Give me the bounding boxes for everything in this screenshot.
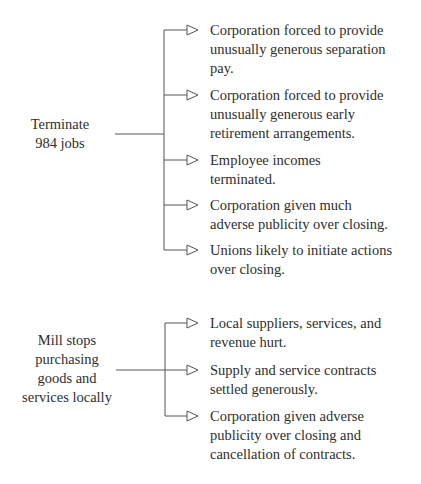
arrow-icon <box>187 411 198 421</box>
effect-contracts-settled: Supply and service contracts settled gen… <box>210 361 421 399</box>
effect-incomes-terminated: Employee incomes terminated. <box>210 151 421 189</box>
effect-early-retirement: Corporation forced to provide unusually … <box>210 86 421 143</box>
arrow-icon <box>187 25 198 35</box>
effect-adverse-publicity: Corporation given much adverse publicity… <box>210 196 421 234</box>
cause-mill-stops-purchasing: Mill stops purchasing goods and services… <box>12 331 122 407</box>
cause-terminate-jobs: Terminate 984 jobs <box>10 115 110 153</box>
effect-separation-pay: Corporation forced to provide unusually … <box>210 21 421 78</box>
arrow-icon <box>187 90 198 100</box>
arrow-icon <box>187 318 198 328</box>
arrow-icon <box>187 245 198 255</box>
arrow-icon <box>187 200 198 210</box>
effect-union-actions: Unions likely to initiate actions over c… <box>210 241 421 279</box>
arrow-icon <box>187 365 198 375</box>
effect-publicity-cancellation: Corporation given adverse publicity over… <box>210 407 421 464</box>
effect-local-suppliers-hurt: Local suppliers, services, and revenue h… <box>210 314 421 352</box>
consequence-diagram: Terminate 984 jobs Corporation forced to… <box>0 0 421 484</box>
arrow-icon <box>187 155 198 165</box>
